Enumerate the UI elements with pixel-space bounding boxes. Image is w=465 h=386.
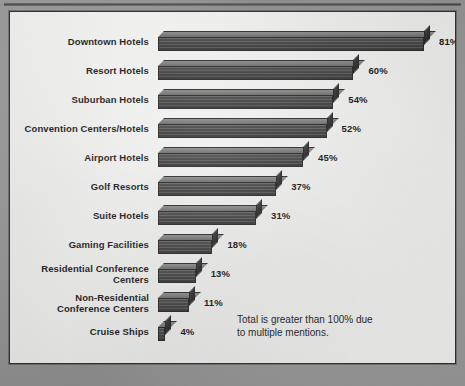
bar-row: Gaming Facilities18% [10,231,455,260]
bar-row: Suite Hotels31% [10,202,455,231]
bar [158,298,195,312]
value-label: 81% [439,36,456,47]
category-label: Suite Hotels [10,211,158,222]
bar-front-face [158,37,424,51]
value-label: 52% [342,123,361,134]
value-label: 11% [204,297,223,308]
category-label: Airport Hotels [10,153,158,164]
bar-side-face [333,83,339,103]
bar-track: 54% [158,86,455,115]
value-label: 13% [211,268,230,279]
bar [158,124,333,138]
value-label: 37% [291,181,310,192]
value-label: 60% [368,65,387,76]
bar-side-face [189,286,195,306]
bar-front-face [158,66,353,80]
bar [158,211,262,225]
bar [158,153,309,167]
value-label: 31% [271,210,290,221]
bar-front-face [158,153,303,167]
category-label: Residential Conference Centers [10,264,158,285]
bar-row: Golf Resorts37% [10,173,455,202]
category-label: Cruise Ships [10,327,158,338]
bar-front-face [158,240,212,254]
bar [158,37,430,51]
bar-side-face [303,141,309,161]
category-label: Golf Resorts [10,182,158,193]
bar-front-face [158,298,189,312]
bar-row: Residential Conference Centers13% [10,260,455,289]
category-label: Gaming Facilities [10,240,158,251]
bar-track: 81% [158,28,455,57]
bar-side-face [165,315,171,335]
bar-side-face [196,257,202,277]
bar-side-face [212,228,218,248]
value-label: 45% [318,152,337,163]
category-label: Convention Centers/Hotels [10,124,158,135]
bar-side-face [256,199,262,219]
bar-row: Convention Centers/Hotels52% [10,115,455,144]
category-label: Suburban Hotels [10,95,158,106]
bar-side-face [424,25,430,45]
bar [158,95,339,109]
chart-annotation: Total is greater than 100% due to multip… [237,313,417,339]
bar-side-face [353,54,359,74]
bar-track: 13% [158,260,455,289]
scan-page-background: Downtown Hotels81%Resort Hotels60%Suburb… [0,0,465,386]
bar-track: 52% [158,115,455,144]
bar-track: 37% [158,173,455,202]
value-label: 18% [227,239,246,250]
bar-front-face [158,182,276,196]
chart-panel: Downtown Hotels81%Resort Hotels60%Suburb… [9,11,456,364]
bar-track: 31% [158,202,455,231]
category-label: Non-Residential Conference Centers [10,293,158,314]
bar [158,240,218,254]
category-label: Downtown Hotels [10,37,158,48]
bar-row: Resort Hotels60% [10,57,455,86]
bar-side-face [276,170,282,190]
bar-front-face [158,211,256,225]
bar [158,327,171,341]
bar-row: Downtown Hotels81% [10,28,455,57]
bar-track: 18% [158,231,455,260]
value-label: 4% [180,326,194,337]
bar-track: 45% [158,144,455,173]
category-label: Resort Hotels [10,66,158,77]
bar-row: Airport Hotels45% [10,144,455,173]
bar [158,66,359,80]
bar-track: 60% [158,57,455,86]
cut-off-header-rule [4,3,461,6]
bar-chart-rows: Downtown Hotels81%Resort Hotels60%Suburb… [10,28,455,347]
bar-front-face [158,95,333,109]
bar-row: Suburban Hotels54% [10,86,455,115]
bar [158,269,202,283]
value-label: 54% [348,94,367,105]
bar [158,182,282,196]
bar-side-face [327,112,333,132]
bar-front-face [158,269,196,283]
bar-front-face [158,124,327,138]
